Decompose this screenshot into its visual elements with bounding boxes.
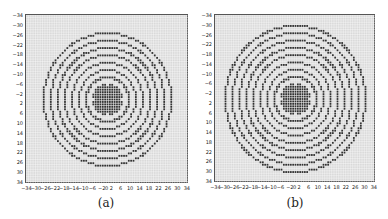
y-tick: −2 bbox=[198, 90, 212, 96]
y-tick: −26 bbox=[198, 32, 212, 38]
y-tick: −14 bbox=[198, 61, 212, 67]
y-tick: −18 bbox=[198, 51, 212, 57]
y-tick: 26 bbox=[198, 158, 212, 164]
y-tick: 22 bbox=[198, 149, 212, 155]
y-tick: 14 bbox=[198, 129, 212, 135]
y-tick: 34 bbox=[198, 178, 212, 184]
y-tick: 30 bbox=[198, 168, 212, 174]
y-tick: −6 bbox=[198, 80, 212, 86]
y-tick: −34 bbox=[198, 12, 212, 18]
y-tick: 6 bbox=[198, 110, 212, 116]
x-tick: 34 bbox=[369, 184, 379, 190]
y-tick: −10 bbox=[198, 71, 212, 77]
y-tick: 2 bbox=[198, 100, 212, 106]
y-tick: 18 bbox=[198, 139, 212, 145]
panel-b: −34−30−26−22−18−14−10−6−2261014182226303… bbox=[0, 0, 388, 219]
y-tick: −30 bbox=[198, 22, 212, 28]
y-tick: 10 bbox=[198, 119, 212, 125]
caption-b: (b) bbox=[275, 196, 315, 210]
plot-b bbox=[214, 14, 375, 182]
y-tick: −22 bbox=[198, 41, 212, 47]
